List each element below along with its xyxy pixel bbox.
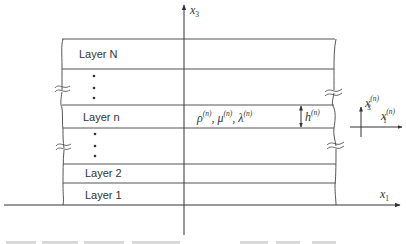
left-boundary-middle [61,92,64,148]
thickness-label: h(n) [305,108,320,124]
ellipsis-dot [93,75,96,78]
left-boundary-upper [62,39,63,90]
layered-medium-diagram: x3 x1 Layer N Layer n Layer 2 Layer 1 ρ(… [0,0,406,244]
ellipsis-dot [93,87,96,90]
break-mark-icon [55,90,70,92]
layer-n-properties: ρ(n), μ(n), λ(n) [196,109,253,125]
break-mark-icon [327,146,344,149]
local-x3-label: x(n)3 [364,94,380,112]
ellipsis-dot [94,155,97,158]
layer-labels: Layer N Layer n Layer 2 Layer 1 [79,48,122,201]
right-boundary-upper [334,39,336,90]
x3-axis-label: x3 [189,3,199,19]
ellipsis-upper [93,75,96,100]
right-boundary-lower [335,149,336,205]
layer-n-label: Layer n [83,111,120,123]
ellipsis-dot [94,145,97,148]
break-mark-icon [56,148,71,150]
thickness-dimension: h(n) [301,106,320,127]
ellipsis-lower [94,133,97,158]
local-axes: x(n)3 x(n)1 [350,94,402,137]
local-x1-label: x(n)1 [380,107,396,125]
layer-1-label: Layer 1 [85,189,122,201]
left-boundary-lower [63,150,64,205]
right-boundary [325,39,344,205]
ellipsis-dot [93,97,96,100]
x1-axis-label: x1 [379,187,389,203]
layer-2-label: Layer 2 [85,167,122,179]
ellipsis-dot [94,133,97,136]
layer-N-label: Layer N [79,48,118,60]
left-boundary [55,39,71,205]
right-boundary-middle [332,93,336,146]
